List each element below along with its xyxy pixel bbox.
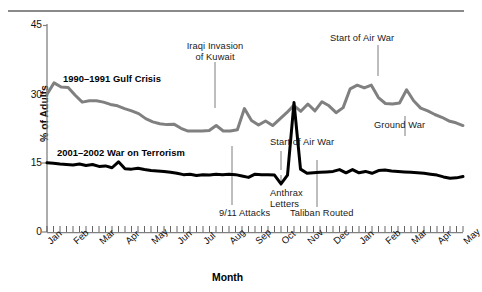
annotation-iraqi-invasion-line2: of Kuwait: [166, 52, 264, 63]
annotation-iraqi-invasion-line1: Iraqi Invasion: [166, 41, 264, 52]
series-line-war-on-terrorism: [47, 103, 463, 184]
series-label-war-on-terrorism: 2001–2002 War on Terrorism: [57, 147, 185, 158]
annotation-taliban-routed: Taliban Routed: [290, 208, 353, 219]
annotation-iraqi-invasion: Iraqi Invasion of Kuwait: [166, 41, 264, 62]
annotation-anthrax-letters: Anthrax Letters: [270, 188, 303, 209]
annotation-nine-eleven-attacks: 9/11 Attacks: [219, 208, 270, 219]
x-axis-title: Month: [212, 272, 243, 283]
annotation-ground-war: Ground War: [374, 120, 425, 131]
annotation-anthrax-line1: Anthrax: [270, 188, 303, 199]
series-label-gulf-crisis: 1990–1991 Gulf Crisis: [63, 73, 161, 84]
annotation-start-air-war-bottom: Start of Air War: [270, 137, 334, 148]
annotation-start-air-war-top: Start of Air War: [330, 33, 394, 44]
